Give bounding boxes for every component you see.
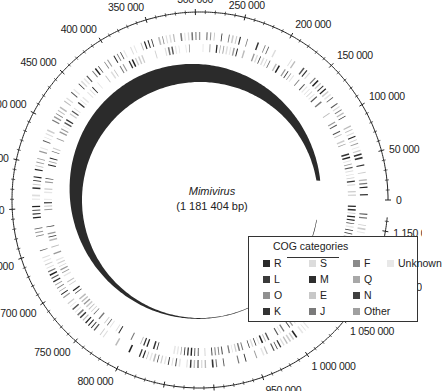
gene-mark [245,39,248,47]
gene-mark [358,224,366,226]
gene-mark [260,57,265,65]
gene-mark [60,266,68,271]
legend-item: Q [353,273,372,285]
gene-mark [40,248,48,251]
gene-mark [44,205,52,206]
gene-mark [135,58,140,66]
gene-mark [352,146,360,149]
legend-label: Q [364,273,372,285]
gene-mark [141,55,145,63]
gene-mark [97,82,103,89]
gene-mark [48,235,56,238]
gene-mark [180,33,182,41]
gene-mark [344,164,352,167]
gene-mark [315,101,322,107]
major-tick [244,15,245,21]
gene-mark [194,360,196,368]
gene-mark [184,33,186,41]
gene-mark [232,48,235,56]
gene-mark [347,219,355,221]
gene-mark [118,326,123,333]
legend-swatch [309,276,316,283]
gene-mark [237,356,240,364]
gene-mark [36,162,44,165]
gene-mark [48,232,56,235]
gene-mark [262,334,266,342]
legend-item: R [263,257,282,269]
legend-label: R [274,257,282,269]
gene-mark [54,116,62,121]
minor-tick [174,384,175,388]
legend-item: S [309,257,327,269]
gene-mark [171,358,173,366]
gene-mark [149,353,153,361]
gene-mark [348,206,356,208]
legend-swatch [263,308,270,315]
gene-mark [113,56,118,63]
gene-mark [247,340,250,348]
gene-mark [146,352,149,360]
gene-mark [143,338,147,346]
gene-mark [348,194,356,195]
gene-mark [60,106,68,112]
gene-mark [48,268,56,273]
gene-mark [265,47,269,55]
gene-mark [107,59,112,66]
gene-mark [66,97,73,103]
gene-mark [256,337,260,345]
gene-mark [241,50,245,58]
scale-label: 200 000 [295,18,331,30]
legend-swatch [263,276,270,283]
gene-mark [146,339,150,347]
gene-mark [359,213,367,215]
gene-mark [53,147,61,151]
gene-mark [45,133,53,137]
gene-mark [341,153,349,157]
gene-mark [260,348,264,356]
minor-tick [13,169,17,170]
legend-swatch [353,276,360,283]
genome-size: (1 181 404 bp) [176,200,248,212]
legend-swatch [309,308,316,315]
scale-label: 650 000 [0,260,14,272]
gene-mark [94,324,100,331]
gene-mark [123,64,128,71]
gene-mark [139,349,143,357]
scale-label: 150 000 [337,49,373,61]
gene-mark [222,46,224,54]
major-tick [305,352,308,357]
gene-mark [244,354,247,362]
gene-mark [173,346,176,354]
legend-swatch [309,260,316,267]
gene-mark [180,347,182,355]
gene-mark [254,55,258,63]
gene-mark [262,45,266,53]
gene-mark [67,298,74,304]
gene-mark [59,287,66,292]
legend-label: S [320,257,327,269]
gene-mark [160,355,163,363]
gene-mark [191,32,193,40]
gene-mark [100,328,105,335]
gene-mark [346,177,354,179]
gene-mark [358,172,366,174]
gene-mark [190,360,192,368]
gene-mark [188,32,190,40]
legend-label: E [320,289,327,301]
gene-mark [147,40,150,48]
gene-mark [104,317,110,324]
gene-mark [346,222,354,224]
gene-mark [189,44,190,52]
gene-mark [155,51,158,59]
gene-mark [346,174,354,176]
gene-mark [33,213,41,215]
gene-mark [347,184,355,186]
gene-mark [123,50,128,58]
gene-mark [59,263,66,267]
gene-mark [104,62,109,69]
gene-mark [132,59,137,67]
gene-mark [115,338,120,346]
gene-mark [115,324,120,331]
gene-mark [168,357,170,365]
